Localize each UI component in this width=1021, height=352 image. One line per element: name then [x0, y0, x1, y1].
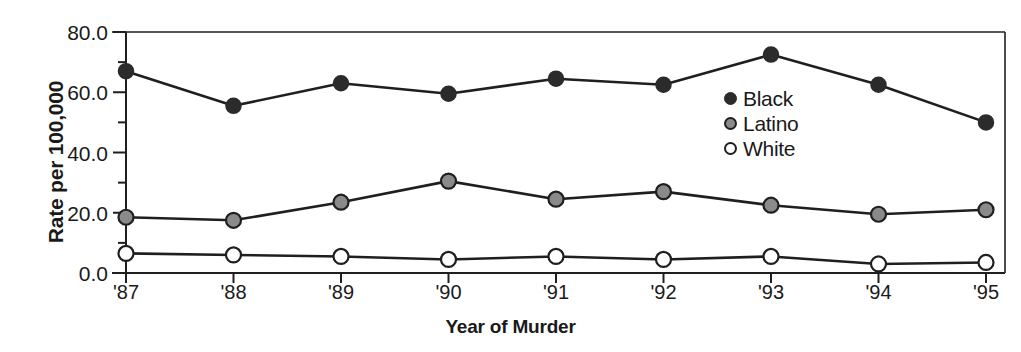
- data-point-marker: [549, 249, 564, 264]
- data-point-marker: [334, 195, 349, 210]
- legend-label: Black: [743, 86, 793, 111]
- legend-item-latino: Latino: [724, 111, 798, 136]
- data-point-marker: [226, 247, 241, 262]
- x-axis-tick-label: '92: [629, 282, 699, 302]
- data-point-marker: [226, 213, 241, 228]
- x-axis-title: Year of Murder: [0, 316, 1021, 338]
- data-point-marker: [441, 174, 456, 189]
- x-axis-tick-label: '88: [199, 282, 269, 302]
- data-point-marker: [334, 76, 349, 91]
- data-point-marker: [764, 198, 779, 213]
- x-axis-tick-label: '87: [91, 282, 161, 302]
- data-point-marker: [979, 115, 994, 130]
- data-point-marker: [656, 184, 671, 199]
- legend-marker-icon: [724, 117, 737, 130]
- data-point-marker: [119, 210, 134, 225]
- x-axis-tick-label: '94: [844, 282, 914, 302]
- data-point-marker: [441, 252, 456, 267]
- data-point-marker: [549, 192, 564, 207]
- series-line: [126, 55, 986, 123]
- data-point-marker: [979, 202, 994, 217]
- legend-label: White: [743, 136, 795, 161]
- x-axis-tick-label: '93: [736, 282, 806, 302]
- series-black: [119, 47, 994, 130]
- data-series-group: [119, 47, 994, 271]
- series-latino: [119, 174, 994, 228]
- data-point-marker: [119, 246, 134, 261]
- x-axis-tick-label: '91: [521, 282, 591, 302]
- data-point-marker: [441, 86, 456, 101]
- data-point-marker: [871, 77, 886, 92]
- data-point-marker: [334, 249, 349, 264]
- data-point-marker: [549, 71, 564, 86]
- x-axis-tick-label: '95: [951, 282, 1021, 302]
- series-white: [119, 246, 994, 272]
- legend-item-white: White: [724, 136, 798, 161]
- axes: [112, 32, 1005, 283]
- data-point-marker: [764, 47, 779, 62]
- data-point-marker: [656, 252, 671, 267]
- data-point-marker: [656, 77, 671, 92]
- chart-legend: BlackLatinoWhite: [724, 86, 798, 161]
- legend-item-black: Black: [724, 86, 798, 111]
- x-axis-tick-label: '90: [414, 282, 484, 302]
- data-point-marker: [871, 207, 886, 222]
- legend-marker-icon: [724, 92, 737, 105]
- chart-figure: Rate per 100,000 0.020.040.060.080.0 '87…: [0, 0, 1021, 352]
- data-point-marker: [764, 249, 779, 264]
- legend-label: Latino: [743, 111, 798, 136]
- x-axis-tick-label: '89: [306, 282, 376, 302]
- data-point-marker: [119, 64, 134, 79]
- data-point-marker: [979, 255, 994, 270]
- legend-marker-icon: [724, 142, 737, 155]
- data-point-marker: [871, 256, 886, 271]
- data-point-marker: [226, 98, 241, 113]
